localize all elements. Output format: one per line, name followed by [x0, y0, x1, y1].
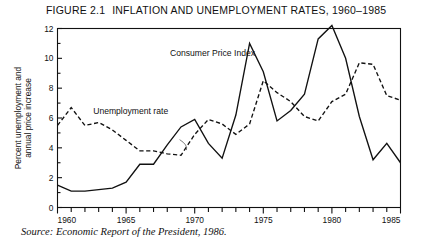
x-axis-tick-label: 1965	[117, 215, 136, 225]
y-axis-tick-label: 10	[44, 53, 54, 63]
y-axis-tick-label: 8	[49, 83, 54, 93]
y-axis-tick-label: 4	[49, 143, 54, 153]
y-axis-title: Percent unemployment andannual price inc…	[13, 66, 34, 169]
source-note: Source: Economic Report of the President…	[21, 226, 227, 237]
series-label-consumer-price-index: Consumer Price Index	[170, 48, 256, 58]
y-axis-tick-label: 6	[49, 113, 54, 123]
chart-plot-area: 024681012196019651970197519801985Percent…	[0, 0, 429, 246]
x-axis-tick-label: 1970	[185, 215, 204, 225]
y-axis-tick-label: 0	[49, 203, 54, 213]
series-label-unemployment-rate: Unemployment rate	[93, 106, 168, 116]
inflation-unemployment-line-chart: 024681012196019651970197519801985Percent…	[0, 0, 429, 246]
y-axis-tick-label: 12	[44, 24, 54, 34]
y-axis-tick-label: 2	[49, 173, 54, 183]
x-axis-tick-label: 1960	[58, 215, 77, 225]
y-axis-title-line-2: annual price increase	[23, 78, 33, 158]
x-axis-tick-label: 1975	[254, 215, 273, 225]
x-axis-tick-label: 1985	[382, 215, 401, 225]
figure-container: FIGURE 2.1INFLATION AND UNEMPLOYMENT RAT…	[0, 0, 429, 246]
y-axis-title-line-1: Percent unemployment and	[13, 66, 23, 169]
x-axis-tick-label: 1980	[323, 215, 342, 225]
